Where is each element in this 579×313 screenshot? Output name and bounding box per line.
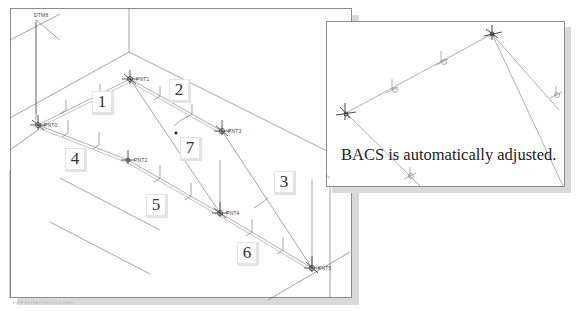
inset-caption: BACS is automatically adjusted. bbox=[341, 145, 556, 165]
inset-node-top bbox=[484, 25, 502, 40]
inset-node-left bbox=[336, 103, 356, 120]
inset-support-3 bbox=[550, 86, 562, 98]
inset-support-2 bbox=[436, 51, 448, 65]
inset-support-4 bbox=[404, 167, 416, 179]
